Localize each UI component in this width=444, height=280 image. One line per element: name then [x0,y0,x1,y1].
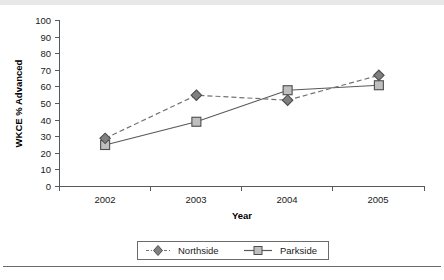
data-point-northside-2003 [191,90,201,100]
y-tick-label-50: 50 [40,98,51,109]
x-tick-label-2004: 2004 [276,194,297,205]
y-tick-label-60: 60 [40,81,51,92]
data-point-northside-2005 [374,70,384,80]
y-tick-label-90: 90 [40,32,51,43]
y-tick-label-70: 70 [40,65,51,76]
y-tick-label-30: 30 [40,131,51,142]
y-tick-label-80: 80 [40,48,51,59]
legend-label-parkside: Parkside [280,245,317,256]
data-point-parkside-2005 [374,81,383,90]
y-tick-label-0: 0 [46,181,51,192]
footer-ghost-text [4,272,234,279]
y-tick-label-40: 40 [40,115,51,126]
y-tick-label-20: 20 [40,148,51,159]
x-tick-label-2005: 2005 [367,194,388,205]
x-axis-title: Year [232,210,252,221]
y-tick-label-100: 100 [35,15,51,26]
diamond-marker-icon [154,246,163,256]
parkside-markers [101,81,384,150]
parkside-line [105,85,379,145]
x-tick-label-2003: 2003 [185,194,206,205]
square-marker-icon [254,247,262,255]
data-point-northside-2004 [282,95,292,105]
northside-line [105,75,379,138]
northside-markers [100,70,384,143]
legend-entry-parkside[interactable]: Parkside [244,245,317,256]
legend-label-northside: Northside [178,245,219,256]
y-axis-title: WKCE % Advanced [13,59,24,147]
chart-legend: Northside Parkside [138,242,329,260]
series-northside [100,70,384,143]
line-chart: 100 90 80 70 60 50 40 30 20 10 0 WKCE % … [0,0,444,262]
series-parkside [101,81,384,150]
x-axis-tick-labels: 2002 2003 2004 2005 [94,194,388,205]
y-axis-tick-labels: 100 90 80 70 60 50 40 30 20 10 0 [35,15,51,192]
footer-divider [3,266,441,267]
legend-entry-northside[interactable]: Northside [146,245,219,256]
x-tick-label-2002: 2002 [94,194,115,205]
chart-figure: 100 90 80 70 60 50 40 30 20 10 0 WKCE % … [0,0,444,280]
data-point-parkside-2004 [283,86,292,95]
x-axis-ticks [60,187,425,192]
y-tick-label-10: 10 [40,164,51,175]
data-point-parkside-2003 [192,117,201,126]
y-axis-ticks [55,21,60,187]
